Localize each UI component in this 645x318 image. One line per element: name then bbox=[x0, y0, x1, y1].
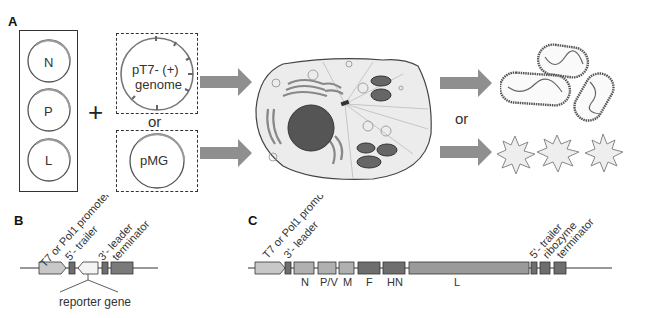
plasmid-p-label: P bbox=[44, 104, 53, 119]
genome-plasmid-line2: genome bbox=[135, 77, 182, 92]
gene-hn-label: HN bbox=[387, 276, 403, 288]
panel-c-genome-construct: N P/V M F HN L T7 or Pol1 promoter 3'- l… bbox=[240, 195, 645, 318]
panel-b-construct: T7 or Pol1 promoter 5'- trailer 3'- lead… bbox=[0, 195, 200, 318]
gene-pv-label: P/V bbox=[320, 276, 338, 288]
arrow-cell-to-virions bbox=[440, 69, 495, 99]
minigenome-label: pMG bbox=[140, 153, 168, 168]
gene-n-label: N bbox=[301, 276, 309, 288]
plus-sign: + bbox=[88, 97, 103, 128]
plasmid-n-label: N bbox=[44, 55, 53, 70]
or-label-2: or bbox=[455, 110, 468, 127]
genome-plasmid-line1: pT7- (+) bbox=[132, 62, 179, 77]
reporter-signal-bursts bbox=[495, 132, 645, 178]
or-label-1: or bbox=[148, 113, 161, 130]
reporter-gene-label: reporter gene bbox=[59, 295, 131, 309]
host-cell-illustration bbox=[253, 54, 435, 184]
gene-f-label: F bbox=[366, 276, 373, 288]
arrow-genome-to-cell bbox=[200, 68, 255, 98]
gene-m-label: M bbox=[343, 276, 352, 288]
virion-particles bbox=[500, 42, 645, 122]
arrow-cell-to-reporter bbox=[440, 138, 495, 168]
panel-a-label: A bbox=[8, 14, 17, 29]
plasmid-l-label: L bbox=[45, 153, 52, 168]
gene-l-label: L bbox=[454, 276, 460, 288]
arrow-minigenome-to-cell bbox=[200, 139, 255, 169]
